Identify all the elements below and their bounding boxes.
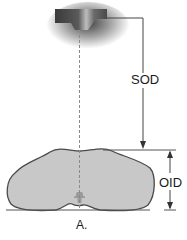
diagram-canvas	[0, 0, 187, 240]
arrow-down-icon	[140, 141, 146, 149]
oid-label: OID	[159, 175, 182, 190]
arrow-up-icon	[167, 151, 173, 159]
sod-label: SOD	[131, 72, 159, 87]
figure-caption: A.	[76, 218, 87, 232]
arrow-down-icon	[167, 202, 173, 210]
